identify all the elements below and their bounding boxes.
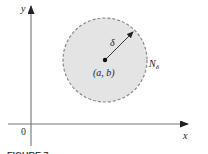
origin-label: 0 — [21, 126, 26, 137]
center-point — [103, 58, 107, 62]
neighborhood-label: Nδ — [148, 58, 160, 71]
y-axis-label: y — [20, 3, 26, 14]
x-axis-label: x — [182, 130, 188, 141]
neighborhood-diagram: y x 0 δ (a, b) Nδ FIGURE 7 — [0, 0, 208, 154]
figure-caption: FIGURE 7 — [7, 150, 49, 154]
neighborhood-label-subscript: δ — [156, 63, 160, 71]
center-label: (a, b) — [93, 67, 115, 79]
radius-label: δ — [110, 37, 115, 48]
